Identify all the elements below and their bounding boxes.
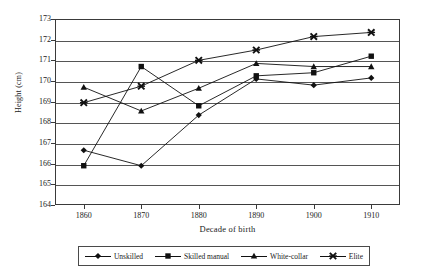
x-axis-tick-mark	[84, 205, 85, 209]
y-axis-tick-mark	[51, 205, 55, 206]
legend-entry-elite[interactable]: Elite	[320, 251, 363, 261]
legend-marker-diamond-icon	[85, 251, 111, 261]
chart-legend: UnskilledSkilled manualWhite-collarElite	[78, 246, 370, 266]
x-axis-title: Decade of birth	[55, 224, 400, 234]
x-axis-tick-label: 1890	[236, 211, 276, 220]
x-axis-tick-label: 1860	[64, 211, 104, 220]
legend-label: White-collar	[270, 252, 308, 261]
legend-label: Unskilled	[114, 252, 143, 261]
legend-label: Elite	[349, 252, 363, 261]
x-axis-tick-label: 1870	[121, 211, 161, 220]
gridline	[56, 82, 399, 83]
y-axis-tick-label: 173	[21, 14, 51, 23]
legend-label: Skilled manual	[184, 252, 229, 261]
y-axis-tick-label: 172	[21, 35, 51, 44]
x-axis-tick-label: 1880	[179, 211, 219, 220]
x-axis-tick-mark	[141, 205, 142, 209]
x-axis-tick-label: 1900	[294, 211, 334, 220]
x-axis-tick-label: 1910	[351, 211, 391, 220]
y-axis-tick-label: 171	[21, 55, 51, 64]
x-axis-tick-mark	[256, 205, 257, 209]
y-axis-tick-label: 169	[21, 97, 51, 106]
x-axis-tick-mark	[371, 205, 372, 209]
y-axis-tick-label: 165	[21, 179, 51, 188]
gridline	[56, 185, 399, 186]
y-axis-tick-label: 167	[21, 138, 51, 147]
gridline	[56, 41, 399, 42]
x-axis-tick-mark	[314, 205, 315, 209]
gridline	[56, 61, 399, 62]
height-by-decade-line-chart: Height (cm) 1641651661671681691701711721…	[0, 0, 441, 278]
gridline	[56, 123, 399, 124]
gridline	[56, 103, 399, 104]
legend-marker-cross-icon	[320, 251, 346, 261]
legend-entry-unskilled[interactable]: Unskilled	[85, 251, 143, 261]
y-axis-tick-label: 164	[21, 200, 51, 209]
gridline	[56, 144, 399, 145]
y-axis-tick-label: 168	[21, 117, 51, 126]
x-axis-tick-mark	[199, 205, 200, 209]
gridline	[56, 165, 399, 166]
plot-area	[55, 19, 400, 205]
y-axis-tick-label: 166	[21, 159, 51, 168]
y-axis-tick-label: 170	[21, 76, 51, 85]
legend-marker-triangle-icon	[241, 251, 267, 261]
legend-entry-white-collar[interactable]: White-collar	[241, 251, 308, 261]
legend-marker-square-icon	[155, 251, 181, 261]
legend-entry-skilled-manual[interactable]: Skilled manual	[155, 251, 229, 261]
